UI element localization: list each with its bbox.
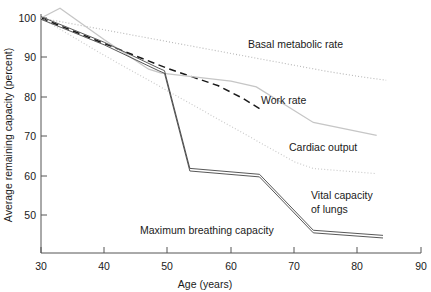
series-label-work-rate: Work rate <box>261 94 306 106</box>
series-label-cardiac-output: Cardiac output <box>289 141 357 153</box>
y-tick-label-70: 70 <box>24 130 36 142</box>
y-tick-label-80: 80 <box>24 91 36 103</box>
y-tick-label-50: 50 <box>24 209 36 221</box>
y-tick-label-100: 100 <box>18 12 36 24</box>
series-label-vital-capacity-line2: of lungs <box>311 203 348 215</box>
x-tick-label-70: 70 <box>288 260 300 272</box>
y-tick-label-90: 90 <box>24 51 36 63</box>
x-axis-title: Age (years) <box>178 278 232 290</box>
x-tick-label-50: 50 <box>161 260 173 272</box>
y-axis-title: Average remaining capacity (percent) <box>2 48 14 222</box>
x-axis-ticks <box>41 247 421 253</box>
x-tick-label-90: 90 <box>415 260 427 272</box>
series-line-cardiac-output <box>41 8 377 135</box>
y-tick-label-60: 60 <box>24 170 36 182</box>
y-axis-ticks <box>41 18 47 215</box>
axis-group <box>41 14 421 253</box>
series-label-basal-metabolic-rate: Basal metabolic rate <box>248 38 343 50</box>
x-tick-label-80: 80 <box>351 260 363 272</box>
x-tick-label-30: 30 <box>35 260 47 272</box>
series-label-maximum-breathing-capacity: Maximum breathing capacity <box>140 224 274 236</box>
series-label-vital-capacity-line1: Vital capacity <box>311 189 373 201</box>
chart-container: 100 90 80 70 60 50 30 40 50 60 70 80 90 … <box>0 0 431 292</box>
series-line-work-rate <box>41 18 263 111</box>
x-tick-label-60: 60 <box>225 260 237 272</box>
x-tick-label-40: 40 <box>98 260 110 272</box>
line-chart: 100 90 80 70 60 50 30 40 50 60 70 80 90 … <box>0 0 431 292</box>
